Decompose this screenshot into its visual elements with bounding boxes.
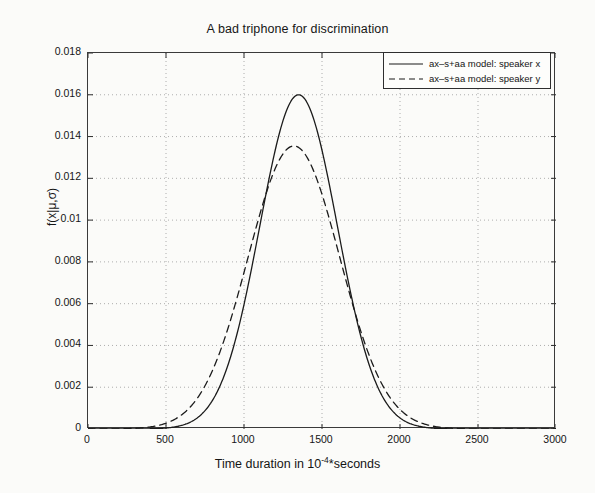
legend-label-speaker-x: ax–s+aa model: speaker x: [429, 59, 540, 69]
x-tick-label: 2500: [447, 433, 507, 445]
y-tick-label: 0.012: [35, 170, 81, 182]
plot-canvas: [88, 53, 556, 429]
y-tick-label: 0.01: [35, 212, 81, 224]
y-tick-label: 0.016: [35, 87, 81, 99]
y-tick-label: 0.006: [35, 296, 81, 308]
y-axis-title: f(x|μ,σ): [45, 147, 59, 267]
x-tick-label: 0: [57, 433, 117, 445]
y-tick-label: 0: [35, 421, 81, 433]
legend-line-dashed-icon: [388, 74, 424, 84]
y-tick-label: 0.008: [35, 254, 81, 266]
x-tick-label: 1000: [213, 433, 273, 445]
legend-label-speaker-y: ax–s+aa model: speaker y: [429, 74, 540, 84]
x-axis-title-prefix: Time duration in 10: [215, 457, 322, 471]
y-tick-label: 0.004: [35, 337, 81, 349]
legend-item-speaker-y: ax–s+aa model: speaker y: [388, 71, 546, 86]
x-axis-title: Time duration in 10-4*seconds: [0, 455, 595, 471]
y-tick-label: 0.014: [35, 129, 81, 141]
gridlines: [88, 53, 556, 429]
plot-area: [87, 52, 555, 428]
legend-item-speaker-x: ax–s+aa model: speaker x: [388, 56, 546, 71]
y-tick-label: 0.018: [35, 45, 81, 57]
x-tick-label: 3000: [525, 433, 585, 445]
x-tick-label: 1500: [291, 433, 351, 445]
figure-container: A bad triphone for discrimination f(x|μ,…: [0, 0, 595, 493]
legend-line-solid-icon: [388, 59, 424, 69]
chart-title: A bad triphone for discrimination: [0, 22, 595, 36]
x-axis-title-suffix: *seconds: [329, 457, 380, 471]
chart-legend: ax–s+aa model: speaker x ax–s+aa model: …: [383, 52, 551, 89]
x-axis-title-exponent: -4: [321, 455, 329, 465]
x-tick-label: 2000: [369, 433, 429, 445]
x-tick-label: 500: [135, 433, 195, 445]
y-tick-label: 0.002: [35, 379, 81, 391]
